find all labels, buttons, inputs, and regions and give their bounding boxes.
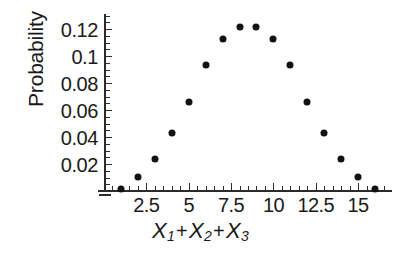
y-axis-minor-tick: [106, 157, 110, 158]
x-axis-subscript-3: 3: [241, 228, 249, 244]
x-axis-minor-tick: [138, 186, 139, 190]
x-axis-minor-tick: [163, 186, 164, 190]
x-axis-tick-labels: 2.557.51012.515: [104, 194, 398, 218]
y-axis-tick-label: 0.08: [34, 74, 98, 94]
x-axis-minor-tick: [256, 186, 257, 190]
x-axis-minor-tick: [282, 186, 283, 190]
y-axis-minor-tick: [106, 184, 110, 185]
y-axis-minor-tick: [106, 76, 110, 77]
y-axis-minor-tick: [106, 70, 110, 71]
x-axis-major-tick: [316, 183, 317, 190]
y-axis-minor-tick: [106, 49, 110, 50]
y-axis-minor-tick: [106, 144, 110, 145]
y-axis-minor-tick: [106, 43, 110, 44]
y-axis-minor-tick: [106, 90, 110, 91]
x-axis-minor-tick: [324, 186, 325, 190]
x-axis-minor-tick: [384, 186, 385, 190]
x-axis-minor-tick: [180, 186, 181, 190]
x-axis-title: X1+X2+X3: [0, 218, 401, 244]
y-axis-minor-tick: [106, 130, 110, 131]
x-axis-tick-label: 10: [263, 194, 284, 216]
x-axis-minor-tick: [367, 186, 368, 190]
data-point: [338, 156, 345, 163]
y-axis-major-tick: [106, 56, 112, 57]
data-point: [202, 61, 209, 68]
x-axis-term-3: X: [226, 218, 241, 243]
x-axis-subscript-1: 1: [167, 228, 175, 244]
x-axis-subscript-2: 2: [204, 228, 212, 244]
y-axis-major-tick: [106, 29, 112, 30]
y-axis-minor-tick: [106, 63, 110, 64]
data-point: [355, 173, 362, 180]
x-axis-tick-label: 7.5: [218, 194, 244, 216]
x-axis-operator-1: +: [175, 220, 189, 242]
data-point: [287, 61, 294, 68]
x-axis-tick-label: 12.5: [297, 194, 334, 216]
x-axis-tick-label: 5: [183, 194, 194, 216]
y-axis-tick-label: 0.06: [34, 101, 98, 121]
x-axis-tick-label: 15: [348, 194, 369, 216]
data-point: [372, 185, 379, 192]
y-axis-major-tick: [106, 137, 112, 138]
x-axis-minor-tick: [341, 186, 342, 190]
x-axis-major-tick: [358, 183, 359, 190]
y-axis-minor-tick: [106, 171, 110, 172]
data-point: [185, 99, 192, 106]
y-axis-minor-tick: [106, 124, 110, 125]
x-axis-operator-2: +: [212, 220, 226, 242]
x-axis-minor-tick: [172, 186, 173, 190]
x-axis-minor-tick: [290, 186, 291, 190]
y-axis-minor-tick: [106, 22, 110, 23]
y-axis-tick-label: 0.04: [34, 128, 98, 148]
x-axis-major-tick: [189, 183, 190, 190]
x-axis-minor-tick: [197, 186, 198, 190]
data-point: [168, 130, 175, 137]
x-axis-minor-tick: [155, 186, 156, 190]
y-axis-major-tick: [106, 110, 112, 111]
x-axis-minor-tick: [265, 186, 266, 190]
x-axis-minor-tick: [307, 186, 308, 190]
x-axis-term-2: X: [189, 218, 204, 243]
x-axis-minor-tick: [206, 186, 207, 190]
data-point: [134, 173, 141, 180]
data-point: [253, 23, 260, 30]
x-axis-term-1: X: [152, 218, 167, 243]
x-axis-minor-tick: [129, 186, 130, 190]
y-axis-tick-labels: 0.020.040.060.080.10.12: [32, 0, 98, 200]
plot-area: [104, 14, 392, 192]
x-axis-minor-tick: [240, 186, 241, 190]
y-axis-minor-tick: [106, 103, 110, 104]
y-axis-minor-tick: [106, 36, 110, 37]
x-axis-minor-tick: [299, 186, 300, 190]
x-axis-minor-tick: [333, 186, 334, 190]
y-axis-tick-label: 0.12: [34, 20, 98, 40]
x-axis-minor-tick: [248, 186, 249, 190]
chart-figure: Probability 0.020.040.060.080.10.12 2.55…: [0, 0, 401, 254]
x-axis-tick-label: 2.5: [133, 194, 159, 216]
y-axis-minor-tick: [106, 178, 110, 179]
y-axis-minor-tick: [106, 16, 110, 17]
y-axis-tick-label: 0.1: [34, 47, 98, 67]
data-point: [117, 185, 124, 192]
y-axis-tick-label: 0.02: [34, 155, 98, 175]
x-axis-major-tick: [231, 183, 232, 190]
data-point: [304, 99, 311, 106]
data-point: [151, 156, 158, 163]
y-axis-minor-tick: [106, 117, 110, 118]
y-axis-major-tick: [106, 164, 112, 165]
data-point: [270, 36, 277, 43]
x-axis-minor-tick: [223, 186, 224, 190]
x-axis-line: [98, 190, 392, 192]
x-axis-minor-tick: [112, 186, 113, 190]
x-axis-major-tick: [146, 183, 147, 190]
x-axis-major-tick: [273, 183, 274, 190]
y-axis-major-tick: [106, 83, 112, 84]
x-axis-minor-tick: [350, 186, 351, 190]
data-point: [236, 23, 243, 30]
y-axis-minor-tick: [106, 151, 110, 152]
data-point: [219, 36, 226, 43]
data-point: [321, 130, 328, 137]
x-axis-minor-tick: [214, 186, 215, 190]
y-axis-minor-tick: [106, 97, 110, 98]
